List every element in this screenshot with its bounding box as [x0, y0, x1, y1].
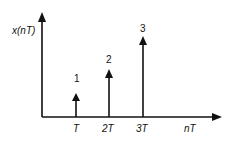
stem-plot — [0, 0, 231, 143]
value-label-3: 3 — [140, 24, 146, 34]
stem-2-arrow-icon — [105, 69, 113, 78]
x-axis-arrow-icon — [212, 113, 222, 121]
y-axis-arrow-icon — [38, 12, 46, 22]
tick-label-2t: 2T — [102, 124, 114, 134]
stem-1-arrow-icon — [72, 93, 80, 101]
tick-label-3t: 3T — [136, 124, 148, 134]
x-axis-label: nT — [184, 124, 196, 134]
tick-label-t: T — [73, 124, 79, 134]
stem-3-arrow-icon — [139, 36, 147, 45]
value-label-2: 2 — [106, 55, 112, 65]
y-axis-label: x(nT) — [12, 26, 35, 36]
value-label-1: 1 — [74, 74, 80, 84]
